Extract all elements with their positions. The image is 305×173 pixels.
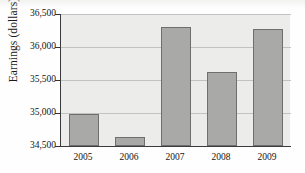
y-axis-tick-labels: 34,50035,00035,50036,00036,500 [12, 0, 56, 173]
bar [69, 114, 99, 146]
x-axis-tick-label: 2008 [198, 150, 244, 164]
y-axis-tick-mark [55, 146, 60, 147]
plot-area [60, 14, 290, 146]
x-axis-tick-label: 2009 [244, 150, 290, 164]
x-axis-tick-label: 2006 [106, 150, 152, 164]
x-axis-line [55, 146, 291, 147]
y-axis-tick-mark [55, 113, 60, 114]
y-axis-tick-label: 36,500 [16, 9, 56, 19]
bar-chart-figure: Earnings (dollars) 34,50035,00035,50036,… [0, 0, 305, 173]
bar [253, 29, 283, 146]
y-axis-tick-mark [55, 14, 60, 15]
x-axis-tick-label: 2005 [60, 150, 106, 164]
x-axis-tick-label: 2007 [152, 150, 198, 164]
x-axis-tick-labels: 20052006200720082009 [60, 150, 290, 166]
bar [115, 137, 145, 146]
y-axis-tick-label: 35,000 [16, 108, 56, 118]
bar [161, 27, 191, 146]
y-axis-tick-mark [55, 47, 60, 48]
y-axis-tick-label: 36,000 [16, 42, 56, 52]
gridline [61, 14, 291, 15]
bar [207, 72, 237, 146]
y-axis-tick-label: 35,500 [16, 75, 56, 85]
y-axis-tick-label: 34,500 [16, 141, 56, 151]
y-axis-tick-mark [55, 80, 60, 81]
